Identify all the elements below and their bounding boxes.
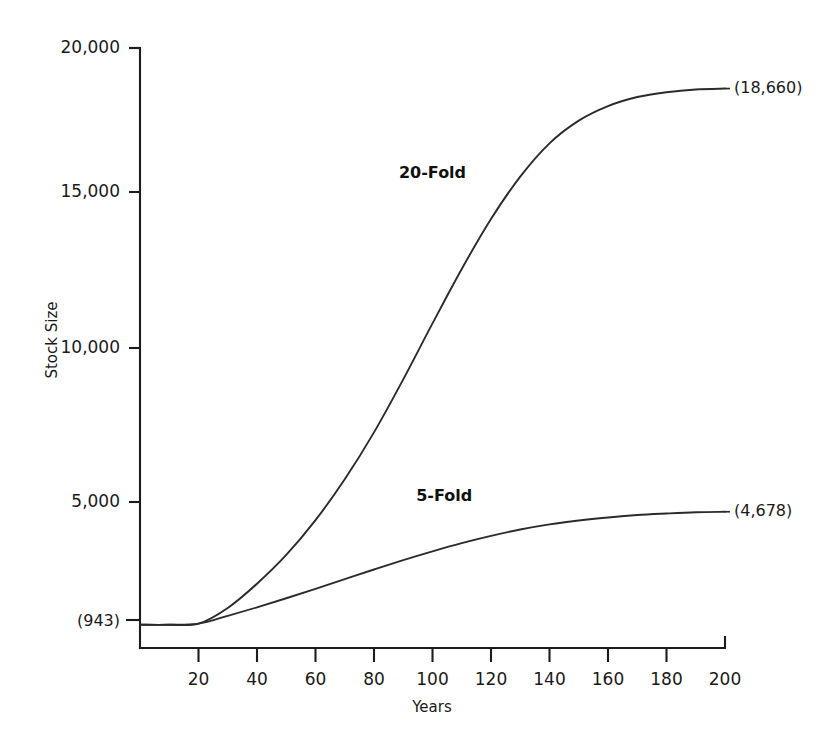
x-tick-label-180: 180 bbox=[650, 669, 682, 689]
x-tick-label-200: 200 bbox=[709, 669, 741, 689]
x-axis-title: Years bbox=[411, 698, 452, 716]
chart-canvas: 20,000 15,000 10,000 5,000 (943) 20 40 6… bbox=[0, 0, 828, 746]
x-tick-label-40: 40 bbox=[246, 669, 268, 689]
x-ticks-group bbox=[199, 648, 667, 662]
endpoint-label-20-fold: (18,660) bbox=[734, 78, 802, 97]
x-tick-label-80: 80 bbox=[363, 669, 385, 689]
x-tick-label-160: 160 bbox=[592, 669, 624, 689]
x-tick-label-60: 60 bbox=[305, 669, 327, 689]
x-tick-label-120: 120 bbox=[475, 669, 507, 689]
y-origin-label: (943) bbox=[77, 611, 120, 630]
axes-group bbox=[130, 48, 725, 648]
y-ticks-group bbox=[126, 48, 140, 620]
x-tick-label-100: 100 bbox=[416, 669, 448, 689]
y-tick-label-5000: 5,000 bbox=[71, 491, 120, 511]
y-axis-title: Stock Size bbox=[43, 301, 61, 378]
stock-size-growth-chart: 20,000 15,000 10,000 5,000 (943) 20 40 6… bbox=[0, 0, 828, 746]
y-tick-label-10000: 10,000 bbox=[61, 337, 120, 357]
y-tick-label-15000: 15,000 bbox=[61, 181, 120, 201]
x-tick-label-140: 140 bbox=[533, 669, 565, 689]
endpoint-label-5-fold: (4,678) bbox=[734, 501, 792, 520]
series-label-20-fold: 20-Fold bbox=[399, 163, 466, 182]
series-label-5-fold: 5-Fold bbox=[416, 486, 472, 505]
y-tick-label-20000: 20,000 bbox=[61, 37, 120, 57]
x-tick-label-20: 20 bbox=[188, 669, 210, 689]
